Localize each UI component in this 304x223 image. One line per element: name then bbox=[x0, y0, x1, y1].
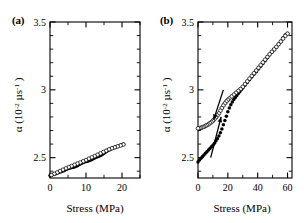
svg-text:α (10-2 µs-1 ): α (10-2 µs-1 ) bbox=[12, 77, 25, 132]
x-tick-label: 10 bbox=[81, 182, 91, 193]
panel-b-ylabel: α (10-2 µs-1 ) bbox=[160, 77, 173, 132]
series-unloading bbox=[196, 32, 289, 130]
y-tick-label: 3.5 bbox=[34, 17, 47, 28]
panel-b-ylabel-mid: µs bbox=[160, 90, 172, 103]
svg-text:α (10-2 µs-1 ): α (10-2 µs-1 ) bbox=[160, 77, 173, 132]
y-tick-label: 3 bbox=[41, 84, 46, 95]
panel-a-ylabel-open: (10 bbox=[12, 109, 25, 127]
panel-a-plot: 010202.533.5 α (10-2 µs-1 ) Stress (MPa) bbox=[0, 0, 152, 223]
x-tick-label: 0 bbox=[48, 182, 53, 193]
y-tick-label: 3 bbox=[189, 84, 194, 95]
data-point bbox=[217, 134, 221, 138]
panel-b-ylabel-close: ) bbox=[160, 77, 173, 84]
y-tick-label: 3.5 bbox=[182, 17, 195, 28]
data-point bbox=[223, 119, 227, 123]
data-point bbox=[220, 127, 224, 131]
series-unloading bbox=[50, 143, 126, 177]
panel-a-ylabel-close: ) bbox=[12, 77, 25, 84]
data-point bbox=[228, 106, 232, 110]
series-loading bbox=[196, 32, 289, 164]
panel-b: (b) 02040602.533.5 α (10-2 µs-1 ) Stress… bbox=[152, 0, 304, 223]
x-tick-label: 20 bbox=[223, 182, 233, 193]
data-point bbox=[219, 131, 223, 135]
y-tick-label: 2.5 bbox=[34, 152, 47, 163]
panel-b-xlabel: Stress (MPa) bbox=[213, 202, 270, 215]
data-point bbox=[225, 114, 229, 118]
panel-a-xlabel: Stress (MPa) bbox=[66, 202, 123, 215]
data-point bbox=[196, 127, 200, 131]
y-tick-label: 2.5 bbox=[182, 152, 195, 163]
panel-a-ylabel-mid: µs bbox=[12, 90, 24, 103]
figure-root: (a) 010202.533.5 α (10-2 µs-1 ) Stress (… bbox=[0, 0, 304, 223]
x-tick-label: 20 bbox=[117, 182, 127, 193]
panel-a-ylabel: α (10-2 µs-1 ) bbox=[12, 77, 25, 132]
x-tick-label: 0 bbox=[196, 182, 201, 193]
panel-b-plot: 02040602.533.5 α (10-2 µs-1 ) Stress (MP… bbox=[152, 0, 304, 223]
panel-b-ylabel-open: (10 bbox=[160, 109, 173, 127]
data-point bbox=[222, 123, 226, 127]
panel-a: (a) 010202.533.5 α (10-2 µs-1 ) Stress (… bbox=[0, 0, 152, 223]
data-point bbox=[50, 173, 54, 177]
x-tick-label: 40 bbox=[253, 182, 263, 193]
data-point bbox=[226, 110, 230, 114]
x-tick-label: 60 bbox=[283, 182, 293, 193]
